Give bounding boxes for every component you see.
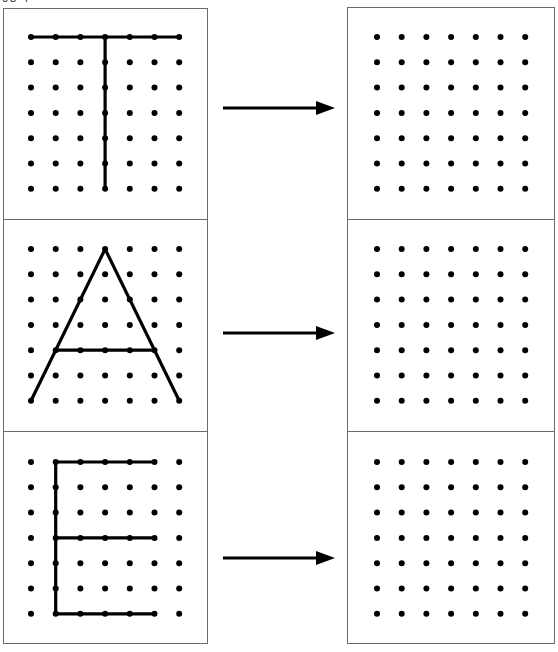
- grid-dot: [77, 322, 83, 328]
- grid-dot: [374, 186, 380, 192]
- right-arrow-icon: [223, 551, 335, 565]
- grid-dot: [498, 398, 504, 404]
- grid-dot: [374, 535, 380, 541]
- grid-dot: [522, 586, 528, 592]
- grid-dot: [498, 510, 504, 516]
- grid-dot: [176, 246, 182, 252]
- grid-dot: [473, 347, 479, 353]
- grid-dot: [102, 398, 108, 404]
- grid-dot: [127, 535, 133, 541]
- target-grid-empty: [374, 459, 528, 617]
- grid-dot: [127, 297, 133, 303]
- grid-dot: [53, 484, 59, 490]
- grid-dot: [399, 186, 405, 192]
- grid-dot: [423, 110, 429, 116]
- grid-dot: [498, 322, 504, 328]
- grid-dot: [152, 161, 158, 167]
- grid-dot: [522, 186, 528, 192]
- grid-dot: [399, 373, 405, 379]
- grid-dot: [77, 510, 83, 516]
- grid-dot: [127, 510, 133, 516]
- grid-dot: [77, 373, 83, 379]
- grid-dot: [448, 34, 454, 40]
- grid-dot: [448, 322, 454, 328]
- grid-dot: [473, 34, 479, 40]
- grid-dot: [448, 586, 454, 592]
- grid-dot: [102, 297, 108, 303]
- grid-dot: [28, 611, 34, 617]
- grid-dot: [127, 246, 133, 252]
- grid-dot: [102, 510, 108, 516]
- grid-dot: [473, 186, 479, 192]
- grid-dot: [176, 560, 182, 566]
- grid-dot: [522, 161, 528, 167]
- grid-dot: [127, 484, 133, 490]
- target-grid-empty: [374, 246, 528, 404]
- grid-dot: [473, 535, 479, 541]
- grid-dot: [102, 271, 108, 277]
- grid-dot: [448, 347, 454, 353]
- grid-dot: [473, 110, 479, 116]
- grid-dot: [53, 398, 59, 404]
- grid-dot: [399, 246, 405, 252]
- grid-dot: [374, 34, 380, 40]
- grid-dot: [423, 322, 429, 328]
- grid-dot: [423, 398, 429, 404]
- grid-dot: [28, 560, 34, 566]
- grid-dot: [498, 59, 504, 65]
- grid-dot: [522, 484, 528, 490]
- grid-dot: [498, 161, 504, 167]
- grid-dot: [152, 271, 158, 277]
- grid-dot: [77, 560, 83, 566]
- letter-stroke: [31, 249, 105, 401]
- grid-dot: [176, 297, 182, 303]
- grid-dot: [399, 586, 405, 592]
- grid-dot: [498, 297, 504, 303]
- grid-dot: [399, 560, 405, 566]
- grid-dot: [448, 398, 454, 404]
- grid-dot: [399, 271, 405, 277]
- grid-dot: [176, 586, 182, 592]
- grid-dot: [448, 560, 454, 566]
- grid-dot: [374, 161, 380, 167]
- grid-dot: [399, 110, 405, 116]
- grid-dot: [399, 535, 405, 541]
- grid-dot: [102, 535, 108, 541]
- grid-dot: [176, 459, 182, 465]
- grid-dot: [152, 510, 158, 516]
- grid-dot: [423, 135, 429, 141]
- grid-dot: [152, 34, 158, 40]
- grid-dot: [374, 347, 380, 353]
- grid-dot: [152, 297, 158, 303]
- grid-dot: [448, 161, 454, 167]
- grid-dot: [176, 373, 182, 379]
- grid-dot: [53, 85, 59, 91]
- grid-dot: [522, 373, 528, 379]
- grid-dot: [28, 322, 34, 328]
- grid-dot: [374, 85, 380, 91]
- grid-dot: [176, 611, 182, 617]
- grid-dot: [53, 34, 59, 40]
- grid-dot: [176, 271, 182, 277]
- grid-dot: [176, 34, 182, 40]
- grid-dot: [423, 560, 429, 566]
- grid-dot: [374, 271, 380, 277]
- grid-dot: [374, 246, 380, 252]
- grid-dot: [176, 85, 182, 91]
- grid-dot: [399, 34, 405, 40]
- arrow-head: [316, 551, 335, 565]
- grid-dot: [77, 34, 83, 40]
- grid-dot: [374, 560, 380, 566]
- grid-dot: [53, 347, 59, 353]
- grid-dot: [473, 586, 479, 592]
- grid-dot: [522, 535, 528, 541]
- grid-dot: [374, 484, 380, 490]
- grid-dot: [473, 135, 479, 141]
- grid-dot: [423, 85, 429, 91]
- grid-dot: [53, 373, 59, 379]
- grid-dot: [102, 135, 108, 141]
- grid-dot: [176, 510, 182, 516]
- grid-dot: [127, 398, 133, 404]
- grid-dot: [399, 322, 405, 328]
- grid-dot: [473, 161, 479, 167]
